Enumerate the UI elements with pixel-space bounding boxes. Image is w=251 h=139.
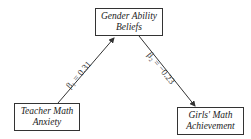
node-label-line1: Teacher Math (15, 106, 79, 117)
node-label-line2: Achievement (178, 121, 243, 132)
node-label-line1: Gender Ability (96, 11, 162, 22)
node-label-line1: Girls' Math (178, 110, 243, 121)
node-girls-math-achievement: Girls' Math Achievement (177, 107, 244, 135)
node-label-line2: Anxiety (15, 117, 79, 128)
node-label-line2: Beliefs (96, 22, 162, 33)
node-teacher-math-anxiety: Teacher Math Anxiety (14, 103, 80, 131)
node-gender-ability-beliefs: Gender Ability Beliefs (95, 8, 163, 36)
